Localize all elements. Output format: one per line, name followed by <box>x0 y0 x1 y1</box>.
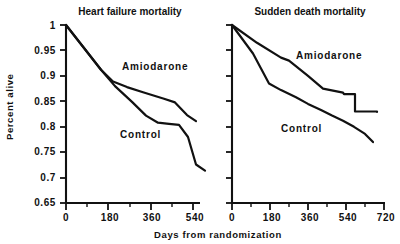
left-panel-title: Heart failure mortality <box>78 6 182 17</box>
x-tick-label: 540 <box>186 212 205 223</box>
y-tick-label: 0.8 <box>40 121 56 132</box>
x-axis-label: Days from randomization <box>154 229 282 240</box>
y-tick-label: 0.95 <box>34 45 56 56</box>
left-control-curve <box>66 25 205 171</box>
y-axis-label: Percent alive <box>4 74 15 140</box>
right-amiodarone-curve <box>232 25 377 112</box>
x-tick-label: 0 <box>63 212 69 223</box>
left-amiodarone-label: Amiodarone <box>122 61 188 72</box>
y-tick-label: 0.7 <box>40 172 56 183</box>
left-amiodarone-curve <box>66 25 196 121</box>
x-tick-label: 360 <box>301 212 320 223</box>
y-tick-label: 0.85 <box>34 96 56 107</box>
right-amiodarone-label: Amiodarone <box>296 50 362 61</box>
y-tick-label: 0.9 <box>40 70 56 81</box>
x-tick-label: 360 <box>143 212 162 223</box>
x-tick-label: 720 <box>377 212 396 223</box>
y-tick-label: 0.75 <box>34 146 56 157</box>
x-tick-label: 540 <box>339 212 358 223</box>
right-panel-title: Sudden death mortality <box>254 6 366 17</box>
mortality-survival-figure: Percent alive Days from randomization He… <box>0 0 400 244</box>
x-tick-label: 180 <box>263 212 282 223</box>
right-control-label: Control <box>281 123 322 134</box>
panel-heart-failure-mortality: Heart failure mortality 1 0.95 0.9 0.85 … <box>34 6 205 223</box>
x-tick-label: 0 <box>229 212 235 223</box>
x-tick-label: 180 <box>101 212 120 223</box>
y-tick-label: 0.65 <box>34 197 56 208</box>
panel-sudden-death-mortality: Sudden death mortality <box>226 6 395 223</box>
y-tick-label: 1 <box>50 20 56 31</box>
left-control-label: Control <box>120 129 161 140</box>
